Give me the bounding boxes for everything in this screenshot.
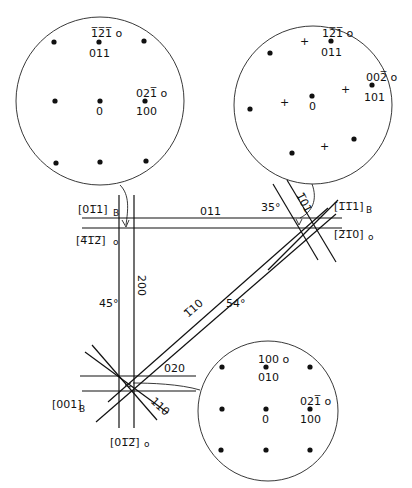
plus-marker: +	[280, 96, 289, 109]
plus-marker: +	[320, 140, 329, 153]
zone-axis-top-right: [1̅1̅1] B [2̅1̅0] o	[334, 200, 374, 242]
zone-axis-o: [01̅2̅]	[110, 436, 140, 449]
center-label: 0	[96, 105, 103, 118]
spot-label-lower: 100	[300, 413, 321, 426]
pattern-top-left: 1̅2̅1̅ o 011 021̅ o 100 0	[16, 17, 184, 185]
angle-label-35: 35°	[261, 201, 281, 214]
zone-axis-top-left: [01̅1] B [4̅1̅2̅] o	[76, 203, 119, 247]
spot-label-upper: 100 o	[258, 353, 289, 366]
center-label: 0	[309, 100, 316, 113]
diagram-canvas: 1̅2̅1̅ o 011 021̅ o 100 0 + + + + 12̅1̅ …	[0, 0, 412, 488]
connector-arrow	[133, 383, 200, 390]
band-diagonal-line	[108, 208, 328, 402]
zone-axis-sub: B	[79, 404, 85, 414]
spot-label-upper: 12̅1̅ o	[322, 27, 353, 40]
spot-label-upper: 1̅2̅1̅ o	[91, 27, 122, 40]
spot-label-lower: 101	[364, 91, 385, 104]
plus-marker: +	[341, 83, 350, 96]
zone-axis-bottom: [001] B [01̅2̅] o	[52, 398, 150, 449]
angle-label-45: 45°	[99, 297, 119, 310]
pattern-bottom-right: 100 o 010 021̅ o 100 0	[198, 341, 338, 481]
band-label-020: 020	[164, 362, 185, 375]
zone-axis-sub: o	[113, 237, 119, 247]
zone-axis-sub: o	[144, 439, 150, 449]
arrow-head-icon	[122, 220, 129, 227]
zone-axis-sub: o	[368, 232, 374, 242]
zone-axis-B: [1̅1̅1]	[334, 200, 364, 213]
spot-label-lower: 011	[321, 46, 342, 59]
zone-axis-o: [4̅1̅2̅]	[76, 234, 106, 247]
zone-axis-sub: B	[113, 208, 119, 218]
band-110-line	[92, 345, 157, 420]
zone-axis-o: [2̅1̅0]	[334, 228, 364, 241]
zone-axis-sub: B	[366, 205, 372, 215]
band-label-200: 200	[135, 275, 148, 296]
spot-label-lower: 011	[89, 47, 110, 60]
diagram-root: 1̅2̅1̅ o 011 021̅ o 100 0 + + + + 12̅1̅ …	[0, 0, 412, 488]
spot-label-lower: 100	[136, 105, 157, 118]
connector-arrow	[120, 185, 128, 225]
band-label-110: 110	[148, 395, 172, 419]
spot-label-upper: 021̅ o	[300, 395, 331, 408]
plus-marker: +	[300, 35, 309, 48]
spot-label-lower: 010	[258, 371, 279, 384]
spot-label-upper: 002̅ o	[366, 71, 397, 84]
band-label-1-10: 1̅10	[181, 297, 205, 321]
zone-axis-B: [001]	[52, 398, 82, 411]
band-label-011: 011	[200, 205, 221, 218]
zone-axis-B: [01̅1]	[78, 203, 108, 216]
pattern-top-right: + + + + 12̅1̅ o 011 002̅ o 101 0	[234, 26, 397, 184]
spot-label-upper: 021̅ o	[136, 87, 167, 100]
center-label: 0	[262, 413, 269, 426]
angle-label-54: 54°	[226, 297, 246, 310]
band-label-101: 1̅01	[293, 190, 314, 215]
